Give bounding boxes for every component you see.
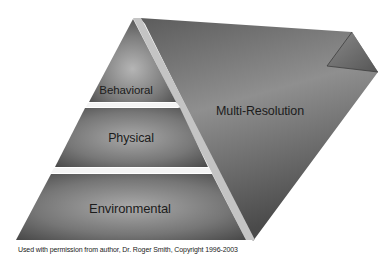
copyright-caption: Used with permission from author, Dr. Ro… bbox=[18, 246, 238, 253]
layer-label-environmental: Environmental bbox=[89, 201, 171, 216]
layer-label-behavioral: Behavioral bbox=[99, 84, 152, 96]
pyramid-diagram bbox=[0, 0, 392, 262]
side-panel-label: Multi-Resolution bbox=[216, 104, 304, 118]
layer-label-physical: Physical bbox=[108, 131, 154, 145]
